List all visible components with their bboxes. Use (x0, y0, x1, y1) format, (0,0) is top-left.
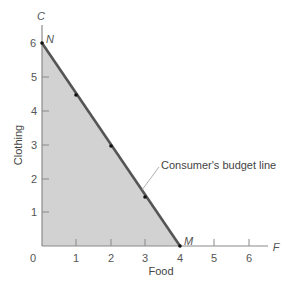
y-axis-letter: C (37, 10, 45, 22)
x-tick-label: 4 (177, 252, 183, 264)
y-tick-label: 5 (31, 71, 37, 83)
y-tick-label: 3 (31, 139, 37, 151)
budget-line-chart: 1 2 3 4 5 6 0 1 2 3 4 5 6 C F Clothing F… (0, 0, 294, 285)
point-label-n: N (46, 33, 54, 45)
x-tick-label: 5 (211, 252, 217, 264)
budget-line-annotation: Consumer's budget line (161, 159, 276, 171)
x-axis-letter: F (273, 241, 281, 253)
y-tick-label: 6 (30, 37, 36, 49)
x-tick-label: 2 (108, 252, 114, 264)
x-tick-label: 0 (30, 252, 36, 264)
x-axis-title: Food (148, 265, 173, 277)
x-tick-label: 3 (142, 252, 148, 264)
y-tick-label: 4 (31, 105, 37, 117)
annotation-leader (142, 167, 159, 190)
y-tick-label: 1 (31, 206, 37, 218)
y-tick-label: 2 (31, 173, 37, 185)
x-tick-label: 6 (246, 252, 252, 264)
point-label-m: M (184, 235, 194, 247)
y-axis-title: Clothing (12, 125, 24, 165)
x-tick-label: 1 (73, 252, 79, 264)
